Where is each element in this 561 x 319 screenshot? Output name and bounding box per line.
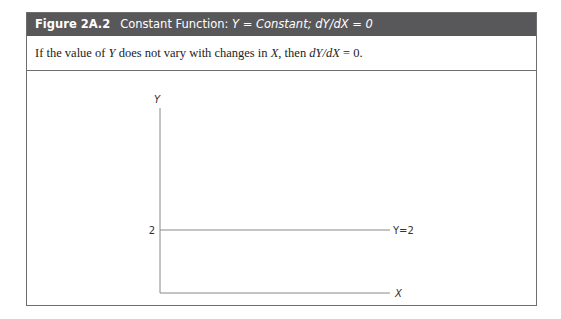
x-axis-label: X: [394, 288, 403, 299]
caption-text: , then: [278, 46, 309, 60]
y-axis-label: Y: [154, 94, 161, 105]
caption-var: Y: [109, 46, 116, 60]
caption-text: = 0.: [340, 46, 363, 60]
figure-label: Figure 2A.2: [35, 17, 110, 31]
plot-area: Y X 2 Y=2: [27, 71, 536, 305]
caption-text: does not vary with changes in: [116, 46, 271, 60]
figure-title-prefix: Constant Function:: [120, 17, 232, 31]
figure-caption: If the value of Y does not vary with cha…: [27, 36, 536, 71]
caption-var: dY/dX: [309, 46, 340, 60]
line-label: Y=2: [392, 225, 414, 236]
figure-title-math: Y = Constant; dY/dX = 0: [232, 17, 373, 31]
figure-box: Figure 2A.2Constant Function: Y = Consta…: [26, 12, 537, 306]
caption-text: If the value of: [35, 46, 109, 60]
y-tick-label: 2: [149, 225, 155, 236]
figure-header: Figure 2A.2Constant Function: Y = Consta…: [27, 13, 536, 36]
